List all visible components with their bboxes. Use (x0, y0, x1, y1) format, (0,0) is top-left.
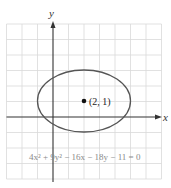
equation-label: 4x² + 9y² − 16x − 18y − 11 = 0 (29, 152, 141, 162)
x-axis-arrow-icon (155, 115, 162, 120)
x-axis-label: x (162, 111, 168, 123)
y-axis-arrow-icon (51, 21, 56, 28)
y-axis-label: y (48, 7, 54, 19)
center-label: (2, 1) (89, 96, 111, 108)
ellipse-graph: x y (2, 1) 4x² + 9y² − 16x − 18y − 11 = … (0, 0, 171, 188)
center-point (82, 99, 87, 104)
